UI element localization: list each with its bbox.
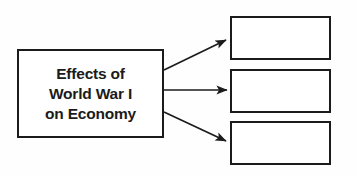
source-node: Effects of World War I on Economy bbox=[17, 49, 164, 138]
effect-node-3[interactable] bbox=[230, 121, 331, 165]
effect-node-3-label bbox=[232, 123, 329, 163]
effect-node-1-label bbox=[232, 18, 329, 58]
effect-node-1[interactable] bbox=[230, 16, 331, 60]
arrow-to-effect-3 bbox=[164, 112, 226, 141]
effect-node-2[interactable] bbox=[230, 69, 331, 113]
source-node-label: Effects of World War I on Economy bbox=[45, 64, 136, 124]
effect-node-2-label bbox=[232, 71, 329, 111]
diagram-canvas: Effects of World War I on Economy bbox=[0, 0, 357, 175]
arrow-to-effect-1 bbox=[164, 40, 226, 70]
